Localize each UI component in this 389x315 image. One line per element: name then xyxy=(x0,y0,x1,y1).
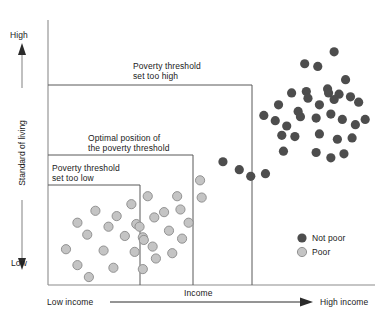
data-point-poor xyxy=(104,222,113,231)
data-point-not-poor xyxy=(348,133,357,142)
legend-marker-poor xyxy=(297,247,306,256)
legend-label-poor: Poor xyxy=(312,247,330,258)
data-point-poor xyxy=(176,205,185,214)
data-point-not-poor xyxy=(312,113,321,122)
data-point-not-poor xyxy=(339,149,348,158)
data-point-not-poor xyxy=(259,111,268,120)
data-point-not-poor xyxy=(354,98,363,107)
data-point-not-poor xyxy=(218,157,227,166)
data-point-poor xyxy=(109,263,118,272)
data-point-poor xyxy=(99,246,108,255)
data-point-poor xyxy=(135,222,144,231)
data-point-poor xyxy=(61,245,70,254)
data-point-poor xyxy=(177,234,186,243)
data-point-poor xyxy=(159,208,168,217)
annotation-too-high-line1: Poverty threshold xyxy=(133,61,201,72)
data-point-not-poor xyxy=(313,62,322,71)
data-point-poor xyxy=(120,231,129,240)
data-point-not-poor xyxy=(296,112,305,121)
annotation-too-low-line1: Poverty threshold xyxy=(52,163,120,174)
data-point-not-poor xyxy=(346,92,355,101)
data-point-poor xyxy=(83,230,92,239)
data-point-not-poor xyxy=(303,94,312,103)
data-point-poor xyxy=(138,265,147,274)
data-point-not-poor xyxy=(315,129,324,138)
data-point-poor xyxy=(151,254,160,263)
data-point-poor xyxy=(143,192,152,201)
data-point-not-poor xyxy=(361,115,370,124)
data-point-poor xyxy=(197,193,206,202)
data-point-poor xyxy=(148,242,157,251)
data-point-not-poor xyxy=(235,165,244,174)
data-point-not-poor xyxy=(277,131,286,140)
data-point-poor xyxy=(184,218,193,227)
data-point-not-poor xyxy=(290,132,299,141)
data-point-poor xyxy=(173,192,182,201)
data-point-not-poor xyxy=(330,47,339,56)
annotation-too-low-line2: set too low xyxy=(52,173,94,184)
data-point-poor xyxy=(127,200,136,209)
data-point-poor xyxy=(195,176,204,185)
data-point-poor xyxy=(112,212,121,221)
data-point-poor xyxy=(73,218,82,227)
x-axis-high-label: High income xyxy=(320,297,368,308)
x-axis-low-label: Low income xyxy=(47,297,93,308)
data-point-not-poor xyxy=(326,153,335,162)
data-point-not-poor xyxy=(312,148,321,157)
data-point-not-poor xyxy=(326,109,335,118)
data-point-not-poor xyxy=(330,95,339,104)
plot-canvas xyxy=(0,0,389,315)
x-axis-title: Income xyxy=(184,288,212,299)
data-point-not-poor xyxy=(351,120,360,129)
data-point-not-poor xyxy=(338,115,347,124)
data-point-not-poor xyxy=(274,100,283,109)
data-point-poor xyxy=(150,213,159,222)
legend-label-not-poor: Not poor xyxy=(312,233,345,244)
data-point-not-poor xyxy=(261,169,270,178)
data-point-not-poor xyxy=(341,75,350,84)
data-point-poor xyxy=(73,261,82,270)
data-point-not-poor xyxy=(279,147,288,156)
x-axis-direction-arrow xyxy=(110,298,313,307)
data-point-poor xyxy=(84,272,93,281)
y-axis-title: Standard of living xyxy=(17,105,27,201)
data-point-poor xyxy=(130,247,139,256)
annotation-optimal-line2: the poverty threshold xyxy=(88,143,169,154)
data-point-not-poor xyxy=(333,135,342,144)
data-point-poor xyxy=(91,206,100,215)
data-point-poor xyxy=(168,249,177,258)
legend-marker-not-poor xyxy=(297,233,306,242)
annotation-too-high-line2: set too high xyxy=(133,71,178,82)
data-point-not-poor xyxy=(271,116,280,125)
poverty-threshold-scatter-figure: High Low Standard of living Income Low i… xyxy=(0,0,389,315)
data-point-not-poor xyxy=(282,121,291,130)
data-point-not-poor xyxy=(315,100,324,109)
y-axis-low-label: Low xyxy=(11,258,27,269)
y-axis-high-arrow xyxy=(18,43,26,88)
data-point-poor xyxy=(139,235,148,244)
data-point-not-poor xyxy=(246,172,255,181)
annotation-optimal-line1: Optimal position of xyxy=(88,133,160,144)
data-point-poor xyxy=(164,226,173,235)
data-point-not-poor xyxy=(300,59,309,68)
y-axis-high-label: High xyxy=(10,30,28,41)
data-point-not-poor xyxy=(287,88,296,97)
